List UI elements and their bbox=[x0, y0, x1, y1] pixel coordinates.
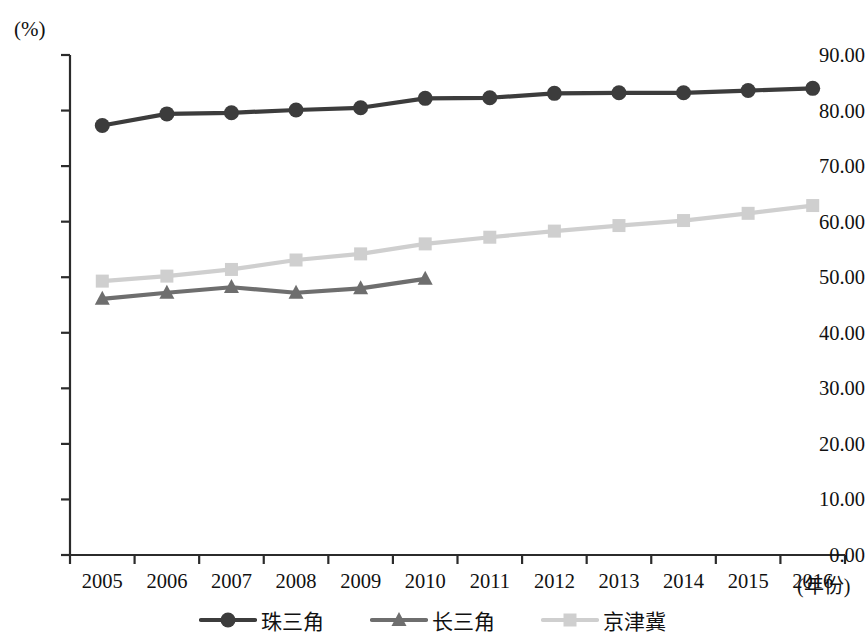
data-point-marker bbox=[221, 613, 236, 628]
data-point-marker bbox=[547, 86, 562, 101]
x-axis-tick-label: 2011 bbox=[470, 570, 510, 593]
x-axis-tick-label: 2009 bbox=[340, 570, 381, 593]
x-axis-tick-label: 2006 bbox=[146, 570, 187, 593]
y-axis-tick-label: 0.00 bbox=[791, 544, 865, 567]
data-point-marker bbox=[805, 81, 820, 96]
y-axis-tick-label: 80.00 bbox=[791, 99, 865, 122]
y-axis-tick-label: 30.00 bbox=[791, 377, 865, 400]
data-point-marker bbox=[225, 263, 238, 276]
legend-label: 珠三角 bbox=[261, 605, 324, 635]
data-point-marker bbox=[564, 614, 577, 627]
series-line bbox=[102, 279, 425, 299]
y-axis-tick-label: 50.00 bbox=[791, 266, 865, 289]
data-point-marker bbox=[419, 237, 432, 250]
x-axis-tick-label: 2015 bbox=[728, 570, 769, 593]
y-axis-tick-label: 90.00 bbox=[791, 44, 865, 67]
data-point-marker bbox=[548, 225, 561, 238]
data-point-marker bbox=[612, 219, 625, 232]
line-chart: (%) (年份) 0.0010.0020.0030.0040.0050.0060… bbox=[0, 0, 865, 640]
x-axis-tick-label: 2012 bbox=[534, 570, 575, 593]
data-point-marker bbox=[742, 207, 755, 220]
x-axis-tick-label: 2013 bbox=[598, 570, 639, 593]
legend-label: 长三角 bbox=[432, 605, 495, 635]
data-point-marker bbox=[224, 105, 239, 120]
chart-series bbox=[95, 81, 820, 305]
legend-item[interactable]: 长三角 bbox=[370, 605, 495, 635]
data-point-marker bbox=[289, 103, 304, 118]
series-square bbox=[96, 199, 819, 288]
series-circle bbox=[95, 81, 820, 133]
x-axis-tick-label: 2007 bbox=[211, 570, 252, 593]
data-point-marker bbox=[95, 118, 110, 133]
data-point-marker bbox=[290, 254, 303, 267]
y-axis-tick-label: 70.00 bbox=[791, 155, 865, 178]
y-axis-tick-label: 60.00 bbox=[791, 210, 865, 233]
chart-canvas bbox=[0, 0, 865, 640]
circle-marker bbox=[199, 609, 257, 631]
square-marker bbox=[541, 609, 599, 631]
y-axis-unit-label: (%) bbox=[14, 17, 45, 42]
data-point-marker bbox=[354, 247, 367, 260]
chart-axes bbox=[61, 55, 845, 564]
data-point-marker bbox=[159, 106, 174, 121]
x-axis-tick-label: 2005 bbox=[82, 570, 123, 593]
series-line bbox=[102, 88, 812, 125]
series-line bbox=[102, 206, 812, 282]
data-point-marker bbox=[96, 275, 109, 288]
chart-legend: 珠三角长三角京津冀 bbox=[0, 605, 865, 635]
data-point-marker bbox=[482, 90, 497, 105]
data-point-marker bbox=[418, 91, 433, 106]
data-point-marker bbox=[676, 85, 691, 100]
data-point-marker bbox=[611, 85, 626, 100]
data-point-marker bbox=[353, 100, 368, 115]
y-axis-tick-label: 10.00 bbox=[791, 488, 865, 511]
data-point-marker bbox=[483, 231, 496, 244]
x-axis-tick-label: 2010 bbox=[405, 570, 446, 593]
y-axis-tick-label: 20.00 bbox=[791, 432, 865, 455]
data-point-marker bbox=[677, 214, 690, 227]
x-axis-tick-label: 2008 bbox=[276, 570, 317, 593]
legend-item[interactable]: 珠三角 bbox=[199, 605, 324, 635]
triangle-marker bbox=[370, 609, 428, 631]
legend-item[interactable]: 京津冀 bbox=[541, 605, 666, 635]
data-point-marker bbox=[741, 83, 756, 98]
x-axis-tick-label: 2014 bbox=[663, 570, 704, 593]
legend-label: 京津冀 bbox=[603, 605, 666, 635]
x-axis-tick-label: 2016 bbox=[792, 570, 833, 593]
data-point-marker bbox=[160, 270, 173, 283]
y-axis-tick-label: 40.00 bbox=[791, 321, 865, 344]
